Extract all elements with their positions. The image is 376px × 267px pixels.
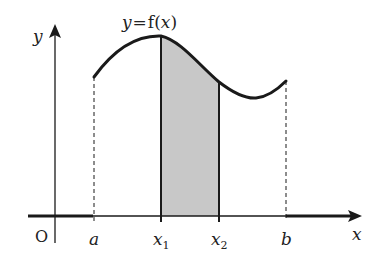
x-axis-label: x bbox=[352, 224, 362, 244]
tick-label-b: b bbox=[281, 229, 292, 249]
integral-diagram: y=f(x) y x O a x1 x2 b bbox=[0, 0, 376, 267]
y-axis-label: y bbox=[32, 26, 43, 46]
tick-label-x2: x2 bbox=[211, 229, 228, 252]
origin-label: O bbox=[35, 227, 48, 246]
tick-label-a: a bbox=[89, 229, 99, 249]
curve-label: y=f(x) bbox=[121, 12, 177, 32]
shaded-area bbox=[161, 36, 219, 216]
tick-label-x1: x1 bbox=[153, 229, 170, 252]
